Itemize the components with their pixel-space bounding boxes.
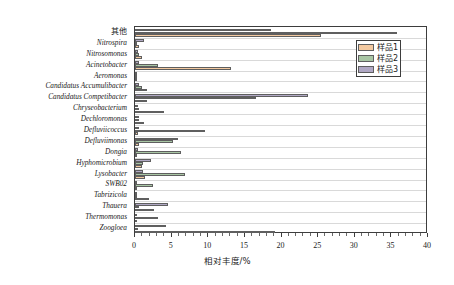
x-minor-tick — [273, 233, 274, 236]
y-axis-label-0: 其他 — [111, 27, 127, 36]
y-axis-label-6: Candidatus Competibacter — [48, 92, 127, 101]
bar-16-series-3 — [135, 203, 168, 206]
bar-14-series-1 — [135, 187, 137, 190]
bar-5-series-1 — [135, 89, 147, 92]
x-axis-title: 相对丰度/% — [0, 254, 454, 266]
bar-3-series-1 — [135, 67, 231, 70]
y-axis-label-3: Acinetobacter — [86, 60, 127, 69]
bar-1-series-1 — [135, 45, 139, 48]
gridline — [135, 38, 426, 39]
x-minor-tick — [420, 233, 421, 236]
x-minor-tick — [156, 233, 157, 236]
x-minor-tick — [141, 233, 142, 236]
x-minor-tick — [215, 233, 216, 236]
x-tick-20 — [281, 233, 282, 237]
y-axis-label-7: Chryseobacterium — [73, 103, 127, 112]
x-tick-label-25: 25 — [313, 241, 321, 250]
x-tick-label-40: 40 — [423, 241, 431, 250]
bar-15-series-1 — [135, 198, 149, 201]
bar-10-series-2 — [135, 140, 173, 143]
x-minor-tick — [324, 233, 325, 236]
x-minor-tick — [237, 233, 238, 236]
bar-12-series-1 — [135, 165, 142, 168]
x-minor-tick — [383, 233, 384, 236]
legend-label-2: 样品2 — [377, 54, 398, 63]
gridline — [135, 114, 426, 115]
bar-10-series-1 — [135, 143, 139, 146]
y-axis-label-10: Defluviimonas — [84, 136, 127, 145]
legend-swatch-3 — [358, 66, 374, 73]
x-minor-tick — [251, 233, 252, 236]
bar-16-series-1 — [135, 209, 154, 212]
x-minor-tick — [178, 233, 179, 236]
x-minor-tick — [302, 233, 303, 236]
bar-14-series-2 — [135, 184, 153, 187]
x-tick-label-20: 20 — [277, 241, 285, 250]
x-minor-tick — [149, 233, 150, 236]
gridline — [135, 136, 426, 137]
x-minor-tick — [332, 233, 333, 236]
bar-6-series-2 — [135, 97, 256, 100]
gridline — [135, 180, 426, 181]
x-tick-label-5: 5 — [169, 241, 173, 250]
bar-7-series-1 — [135, 111, 164, 114]
y-axis-label-1: Nitrospira — [97, 38, 127, 47]
x-minor-tick — [412, 233, 413, 236]
bar-13-series-1 — [135, 176, 145, 179]
y-axis-label-8: Dechloromonas — [81, 114, 127, 123]
bar-8-series-1 — [135, 122, 144, 125]
x-tick-label-0: 0 — [132, 241, 136, 250]
y-axis-label-17: Thermomonas — [85, 212, 127, 221]
gridline — [135, 158, 426, 159]
x-tick-label-15: 15 — [240, 241, 248, 250]
y-axis-label-9: Defluviicoccus — [84, 125, 127, 134]
legend-item-3: 样品3 — [358, 64, 398, 75]
y-axis-label-4: Aeromonas — [94, 71, 127, 80]
x-tick-40 — [427, 233, 428, 237]
x-minor-tick — [398, 233, 399, 236]
legend-swatch-2 — [358, 55, 374, 62]
bar-0-series-1 — [135, 34, 321, 37]
y-axis-label-16: Thauera — [102, 201, 127, 210]
x-minor-tick — [310, 233, 311, 236]
bar-17-series-1 — [135, 220, 137, 223]
x-minor-tick — [295, 233, 296, 236]
gridline — [135, 81, 426, 82]
y-axis-label-12: Hyphomicrobium — [76, 158, 127, 167]
gridline — [135, 169, 426, 170]
gridline — [135, 147, 426, 148]
gridline — [135, 190, 426, 191]
bar-chart: 其他NitrospiraNitrosomonasAcinetobacterAer… — [0, 0, 454, 285]
x-minor-tick — [259, 233, 260, 236]
y-axis-label-2: Nitrosomonas — [86, 49, 127, 58]
x-tick-label-35: 35 — [386, 241, 394, 250]
x-tick-15 — [244, 233, 245, 237]
gridline — [135, 223, 426, 224]
gridline — [135, 201, 426, 202]
x-minor-tick — [266, 233, 267, 236]
x-minor-tick — [288, 233, 289, 236]
x-minor-tick — [361, 233, 362, 236]
legend-label-3: 样品3 — [377, 65, 398, 74]
bar-9-series-1 — [135, 132, 138, 135]
x-minor-tick — [229, 233, 230, 236]
x-axis — [134, 233, 427, 241]
x-minor-tick — [368, 233, 369, 236]
y-axis-category-labels: 其他NitrospiraNitrosomonasAcinetobacterAer… — [0, 26, 130, 233]
gridline — [135, 125, 426, 126]
gridline — [135, 212, 426, 213]
x-tick-label-10: 10 — [203, 241, 211, 250]
legend-swatch-1 — [358, 44, 374, 51]
x-minor-tick — [222, 233, 223, 236]
bar-18-series-3 — [135, 225, 166, 228]
legend: 样品1样品2样品3 — [356, 40, 401, 77]
legend-label-1: 样品1 — [377, 43, 398, 52]
x-tick-5 — [171, 233, 172, 237]
x-minor-tick — [346, 233, 347, 236]
bar-17-series-2 — [135, 217, 158, 220]
y-axis-label-5: Candidatus Accumulibacter — [45, 81, 127, 90]
bar-11-series-1 — [135, 154, 137, 157]
y-axis-label-15: Tabrizicola — [94, 190, 127, 199]
x-tick-25 — [317, 233, 318, 237]
x-minor-tick — [193, 233, 194, 236]
